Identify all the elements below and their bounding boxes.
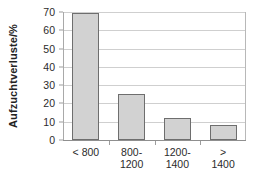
bar (72, 13, 99, 140)
x-axis-tick-label-line: > (200, 146, 246, 158)
x-axis-tick-labels: < 800800-12001200-1400>1400 (63, 146, 246, 190)
x-axis-tick-mark (155, 141, 156, 145)
x-axis-tick-label: < 800 (63, 146, 109, 158)
y-axis-tick-label: 70 (43, 7, 55, 18)
y-axis-tick-label: 50 (43, 43, 55, 54)
y-axis-title-text: Aufzuchtverluste/% (7, 24, 19, 128)
x-axis-tick-label-line: 1200 (109, 158, 155, 170)
y-axis-tick-label: 60 (43, 25, 55, 36)
x-axis-tick-label-line: 1200- (155, 146, 201, 158)
y-axis-tick-mark (59, 30, 63, 31)
y-axis-tick-mark (59, 103, 63, 104)
x-axis-tick-label-line: 800- (109, 146, 155, 158)
x-axis-tick-label: 800-1200 (109, 146, 155, 170)
y-axis-tick-mark (59, 85, 63, 86)
x-axis-tick-label-line: 1400 (200, 158, 246, 170)
y-axis-tick-mark (59, 121, 63, 122)
y-axis-tick-label: 20 (43, 98, 55, 109)
y-axis-tick-mark (59, 12, 63, 13)
y-axis-title: Aufzuchtverluste/% (0, 0, 26, 152)
bar-series (63, 12, 246, 140)
y-axis-tick-mark (59, 140, 63, 141)
y-axis-tick-mark (59, 48, 63, 49)
y-axis-tick-label: 0 (49, 135, 55, 146)
bar (164, 118, 191, 140)
x-axis-tick-label: >1400 (200, 146, 246, 170)
y-axis-tick-label: 40 (43, 62, 55, 73)
y-axis-tick-label: 30 (43, 80, 55, 91)
bar (118, 94, 145, 140)
y-axis-tick-label: 10 (43, 116, 55, 127)
bar (210, 125, 237, 140)
x-axis-tick-label-line: < 800 (63, 146, 109, 158)
y-axis-tick-labels: 010203040506070 (26, 12, 59, 140)
y-axis-tick-mark (59, 66, 63, 67)
x-axis-tick-label-line: 1400 (155, 158, 201, 170)
bar-chart-figure: Aufzuchtverluste/% 010203040506070 < 800… (0, 0, 257, 195)
x-axis-tick-mark (109, 141, 110, 145)
x-axis-tick-mark (200, 141, 201, 145)
x-axis-tick-label: 1200-1400 (155, 146, 201, 170)
